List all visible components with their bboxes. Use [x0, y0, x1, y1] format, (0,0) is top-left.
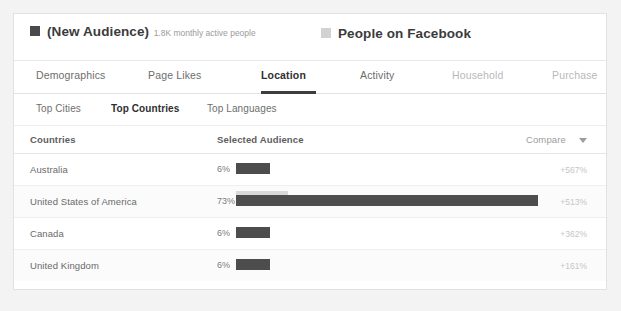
table-row[interactable]: United States of America 73% +513%	[14, 186, 606, 218]
subtab-top-cities[interactable]: Top Cities	[36, 103, 81, 114]
bar-chart-cell	[236, 218, 526, 249]
cell-country-name: United States of America	[30, 196, 137, 207]
cell-country-name: Australia	[30, 164, 68, 175]
table-row[interactable]: Australia 6% +567%	[14, 154, 606, 186]
tab-location[interactable]: Location	[261, 69, 306, 81]
chevron-down-icon[interactable]	[579, 138, 587, 143]
legend-header: (New Audience) 1.8K monthly active peopl…	[14, 14, 606, 60]
screenshot-root: (New Audience) 1.8K monthly active peopl…	[0, 0, 621, 311]
column-header-compare[interactable]: Compare	[526, 134, 566, 145]
cell-compare-value: +567%	[560, 165, 587, 175]
column-header-countries[interactable]: Countries	[30, 134, 76, 145]
tab-activity[interactable]: Activity	[360, 69, 394, 81]
legend-swatch-icon-audience	[30, 26, 40, 36]
cell-country-name: Canada	[30, 228, 64, 239]
legend-audience-title: (New Audience)	[47, 24, 149, 39]
bar-chart-cell	[236, 186, 526, 217]
tab-demographics[interactable]: Demographics	[36, 69, 106, 81]
legend-audience-texts: (New Audience) 1.8K monthly active peopl…	[47, 22, 256, 40]
cell-country-name: United Kingdom	[30, 260, 99, 271]
cell-percent: 6%	[217, 164, 230, 174]
legend-facebook-texts: People on Facebook	[338, 24, 471, 42]
tab-purchase[interactable]: Purchase	[552, 69, 598, 81]
subtab-top-countries[interactable]: Top Countries	[111, 103, 179, 114]
tab-household[interactable]: Household	[452, 69, 504, 81]
bar-chart-cell	[236, 250, 526, 281]
legend-facebook-title: People on Facebook	[338, 26, 471, 41]
table-row[interactable]: Canada 6% +362%	[14, 218, 606, 250]
column-header-selected-audience[interactable]: Selected Audience	[217, 134, 304, 145]
audience-insights-card: (New Audience) 1.8K monthly active peopl…	[13, 13, 607, 290]
legend-item-new-audience: (New Audience) 1.8K monthly active peopl…	[30, 22, 256, 40]
bar-selected-audience	[236, 227, 270, 238]
cell-compare-value: +362%	[560, 229, 587, 239]
bar-selected-audience	[236, 259, 270, 270]
legend-swatch-icon-facebook	[321, 28, 331, 38]
legend-audience-subtitle: 1.8K monthly active people	[154, 28, 256, 38]
cell-percent: 73%	[217, 196, 235, 206]
bar-selected-audience	[236, 195, 538, 206]
table-row[interactable]: United Kingdom 6% +161%	[14, 250, 606, 281]
subtab-top-languages[interactable]: Top Languages	[207, 103, 277, 114]
sub-tab-bar: Top Cities Top Countries Top Languages	[14, 94, 606, 126]
tab-page-likes[interactable]: Page Likes	[148, 69, 201, 81]
cell-percent: 6%	[217, 228, 230, 238]
legend-item-people-on-facebook: People on Facebook	[321, 24, 471, 42]
cell-compare-value: +161%	[560, 261, 587, 271]
table-header-row: Countries Selected Audience Compare	[14, 126, 606, 154]
bar-chart-cell	[236, 154, 526, 185]
cell-compare-value: +513%	[560, 197, 587, 207]
cell-percent: 6%	[217, 260, 230, 270]
main-tab-bar: Demographics Page Likes Location Activit…	[14, 60, 606, 94]
bar-selected-audience	[236, 163, 270, 174]
countries-table: Countries Selected Audience Compare Aust…	[14, 126, 606, 281]
